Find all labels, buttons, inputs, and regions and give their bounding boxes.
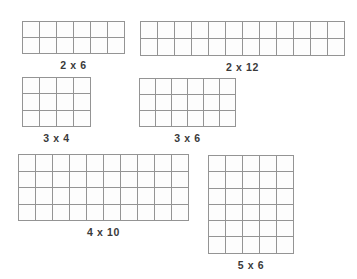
array-cell: [175, 22, 192, 39]
array-cell: [40, 111, 57, 127]
array-cell: [328, 39, 345, 56]
array-cell: [155, 155, 172, 172]
array-cell: [260, 237, 277, 253]
array-label-3x6: 3 x 6: [139, 132, 236, 144]
array-cell: [104, 188, 121, 205]
array-block-4x10: 4 x 10: [18, 154, 189, 238]
array-cell: [138, 155, 155, 172]
array-cell: [277, 172, 294, 188]
array-cell: [172, 172, 189, 189]
array-grid-2x12: [140, 21, 345, 56]
array-cell: [204, 111, 220, 127]
array-cell: [243, 156, 260, 172]
array-label-4x10: 4 x 10: [18, 226, 189, 238]
array-cell: [277, 205, 294, 221]
array-cell: [209, 205, 226, 221]
array-grid-5x6: [208, 155, 294, 254]
array-cell: [70, 155, 87, 172]
array-cell: [243, 221, 260, 237]
array-cell: [57, 78, 74, 94]
array-cell: [209, 189, 226, 205]
array-cell: [226, 156, 243, 172]
array-cell: [121, 205, 138, 222]
array-cell: [108, 22, 125, 38]
array-cell: [104, 172, 121, 189]
array-cell: [23, 78, 40, 94]
array-cell: [23, 94, 40, 110]
array-cell: [220, 79, 236, 95]
array-block-3x4: 3 x 4: [22, 77, 91, 144]
array-cell: [19, 205, 36, 222]
array-cell: [204, 79, 220, 95]
array-label-5x6: 5 x 6: [208, 259, 294, 271]
array-block-2x6: 2 x 6: [22, 21, 125, 71]
array-cell: [209, 237, 226, 253]
array-cell: [104, 155, 121, 172]
arrays-diagram: 2 x 62 x 123 x 43 x 64 x 105 x 6: [0, 0, 357, 279]
array-cell: [188, 79, 204, 95]
array-cell: [209, 22, 226, 39]
array-grid-3x6: [139, 78, 236, 127]
array-cell: [172, 111, 188, 127]
array-cell: [277, 156, 294, 172]
array-cell: [74, 38, 91, 54]
array-block-2x12: 2 x 12: [140, 21, 345, 73]
array-cell: [57, 111, 74, 127]
array-cell: [74, 111, 91, 127]
array-cell: [192, 39, 209, 56]
array-cell: [53, 172, 70, 189]
array-cell: [23, 38, 40, 54]
array-cell: [260, 172, 277, 188]
array-cell: [188, 95, 204, 111]
array-cell: [260, 22, 277, 39]
array-cell: [172, 205, 189, 222]
array-cell: [260, 221, 277, 237]
array-cell: [57, 94, 74, 110]
array-cell: [70, 205, 87, 222]
array-cell: [294, 22, 311, 39]
array-cell: [328, 22, 345, 39]
array-cell: [155, 172, 172, 189]
array-cell: [220, 111, 236, 127]
array-cell: [156, 111, 172, 127]
array-cell: [121, 155, 138, 172]
array-cell: [91, 22, 108, 38]
array-cell: [243, 205, 260, 221]
array-cell: [209, 221, 226, 237]
array-cell: [243, 22, 260, 39]
array-cell: [138, 205, 155, 222]
array-cell: [226, 237, 243, 253]
array-block-5x6: 5 x 6: [208, 155, 294, 271]
array-cell: [277, 221, 294, 237]
array-cell: [23, 111, 40, 127]
array-cell: [172, 95, 188, 111]
array-cell: [155, 205, 172, 222]
array-cell: [141, 39, 158, 56]
array-cell: [108, 38, 125, 54]
array-cell: [158, 22, 175, 39]
array-cell: [158, 39, 175, 56]
array-cell: [260, 205, 277, 221]
array-label-2x6: 2 x 6: [22, 59, 125, 71]
array-cell: [175, 39, 192, 56]
array-cell: [192, 22, 209, 39]
array-cell: [36, 155, 53, 172]
array-cell: [220, 95, 236, 111]
array-cell: [70, 188, 87, 205]
array-cell: [226, 22, 243, 39]
array-cell: [188, 111, 204, 127]
array-cell: [36, 188, 53, 205]
array-cell: [91, 38, 108, 54]
array-cell: [19, 172, 36, 189]
array-cell: [277, 22, 294, 39]
array-grid-3x4: [22, 77, 91, 127]
array-grid-2x6: [22, 21, 125, 54]
array-cell: [140, 95, 156, 111]
array-cell: [243, 237, 260, 253]
array-cell: [74, 78, 91, 94]
array-cell: [87, 188, 104, 205]
array-cell: [226, 39, 243, 56]
array-cell: [155, 188, 172, 205]
array-cell: [277, 189, 294, 205]
array-cell: [19, 188, 36, 205]
